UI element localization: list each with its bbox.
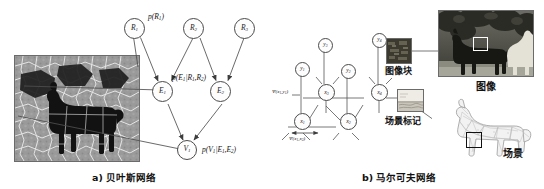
tag-texture xyxy=(398,90,423,111)
node-y2-label: y2 xyxy=(346,68,350,74)
node-y1[interactable]: y1 xyxy=(295,62,310,77)
node-x1[interactable]: x1 xyxy=(294,113,311,130)
node-y4-label: y4 xyxy=(377,37,381,43)
label-image-patch: 图像块 xyxy=(385,64,412,77)
node-x3[interactable]: x3 xyxy=(318,84,335,101)
node-x2-label: x2 xyxy=(346,118,351,125)
figure-graphical-models: R1 R2 R3 E1 E2 V1 p(R1) p(E1|R1,R2) p(V1… xyxy=(0,0,544,189)
node-y3[interactable]: y3 xyxy=(318,38,333,53)
label-scene-marker: 场景标记 xyxy=(385,114,421,127)
node-y1-label: y1 xyxy=(300,66,304,72)
label-psi-x1-x2: Ψ(x1,x2) xyxy=(289,136,305,142)
scene-label-thumb xyxy=(397,89,424,112)
node-x3-label: x3 xyxy=(324,89,329,96)
node-x1-label: x1 xyxy=(300,118,305,125)
node-x4-label: x4 xyxy=(377,89,382,96)
node-y4[interactable]: y4 xyxy=(372,33,387,48)
edge-x3-x2 xyxy=(326,106,340,120)
patch-texture xyxy=(387,39,411,63)
node-x2[interactable]: x2 xyxy=(340,113,357,130)
label-psi-x1-y1: Ψ(x1,y1) xyxy=(272,89,288,95)
label-scene: 场景 xyxy=(503,145,523,160)
horse-photo xyxy=(438,10,534,77)
node-y2[interactable]: y2 xyxy=(341,64,356,79)
caption-panel-b: b) 马尔可夫网络 xyxy=(362,170,436,184)
mesh-patch-highlight xyxy=(466,132,482,148)
photo-patch-highlight xyxy=(473,37,488,51)
image-patch-thumb xyxy=(386,38,412,64)
node-x4[interactable]: x4 xyxy=(371,84,388,101)
node-y3-label: y3 xyxy=(323,42,327,48)
label-image: 图像 xyxy=(476,78,496,93)
